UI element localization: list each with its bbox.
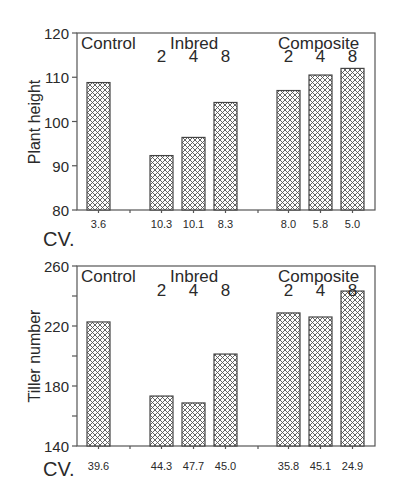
y-tick-label: 80: [52, 202, 69, 219]
figure: Plant height 8090100110120 3.610.310.18.…: [0, 0, 394, 500]
group-sublabel: 8: [221, 47, 230, 66]
cv-value: 44.3: [151, 460, 172, 472]
cv-value: 45.0: [215, 460, 236, 472]
group-sublabel: 2: [157, 47, 166, 66]
group-sublabel: 4: [316, 47, 325, 66]
group-label-control: Control: [81, 267, 136, 286]
panel-plant-height: Plant height 8090100110120 3.610.310.18.…: [26, 25, 375, 250]
bar-composite-4: [309, 317, 332, 446]
cv-value: 39.6: [88, 460, 109, 472]
cv-value: 24.9: [342, 460, 363, 472]
cv-value: 47.7: [183, 460, 204, 472]
cv-value: 8.0: [281, 218, 296, 230]
bar-inbred-8: [214, 354, 237, 446]
y-tick-label: 90: [52, 158, 69, 175]
panel-tiller-number: Tiller number 140180220260 39.644.347.74…: [26, 258, 375, 480]
cv-label: CV.: [43, 458, 75, 480]
bar-inbred-4: [182, 137, 205, 210]
cv-value: 5.8: [313, 218, 328, 230]
y-tick-label: 110: [45, 69, 69, 86]
y-tick-label: 140: [44, 438, 69, 455]
bar-composite-2: [277, 313, 300, 446]
bar-inbred-2: [150, 396, 173, 446]
group-sublabel: 8: [221, 281, 230, 300]
y-axis-label: Plant height: [26, 79, 43, 164]
cv-value: 5.0: [345, 218, 360, 230]
bar-composite-8: [341, 68, 364, 210]
cv-value: 35.8: [278, 460, 299, 472]
cv-label: CV.: [43, 228, 75, 250]
bar-composite-8: [341, 291, 364, 446]
bar-inbred-2: [150, 156, 173, 210]
group-sublabel: 2: [157, 281, 166, 300]
cv-value: 10.3: [151, 218, 172, 230]
group-sublabel: 4: [189, 47, 198, 66]
y-tick-label: 120: [44, 25, 69, 42]
bar-composite-4: [309, 75, 332, 210]
cv-value: 3.6: [91, 218, 106, 230]
bar-composite-2: [277, 91, 300, 210]
bar-control: [87, 83, 110, 210]
y-tick-label: 180: [44, 378, 69, 395]
cv-value: 45.1: [310, 460, 331, 472]
group-label-control: Control: [81, 34, 136, 53]
group-sublabel: 8: [348, 47, 357, 66]
group-sublabel: 8: [348, 281, 357, 300]
group-sublabel: 2: [284, 281, 293, 300]
group-sublabel: 2: [284, 47, 293, 66]
bar-control: [87, 322, 110, 446]
group-sublabel: 4: [189, 281, 198, 300]
y-tick-label: 100: [44, 114, 69, 131]
y-tick-label: 260: [44, 258, 69, 275]
y-tick-label: 220: [44, 318, 69, 335]
bar-inbred-4: [182, 403, 205, 446]
y-axis-label: Tiller number: [26, 309, 43, 402]
cv-value: 10.1: [183, 218, 204, 230]
bar-inbred-8: [214, 102, 237, 210]
cv-value: 8.3: [218, 218, 233, 230]
group-sublabel: 4: [316, 281, 325, 300]
